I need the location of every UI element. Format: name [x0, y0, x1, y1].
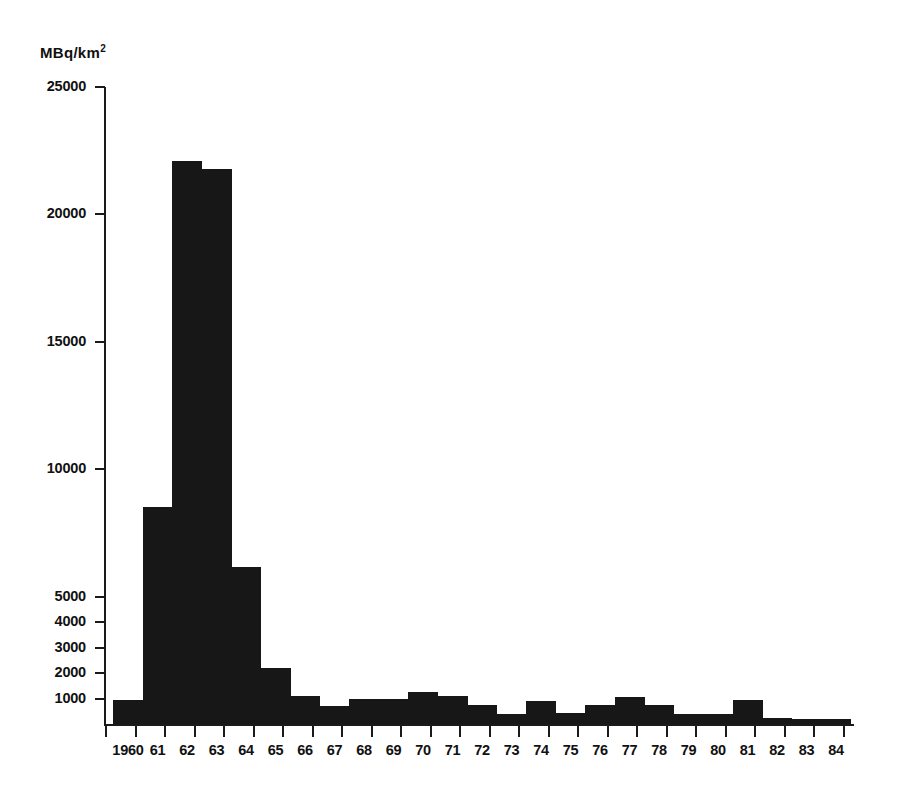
y-axis-tick [95, 647, 105, 649]
x-axis-tick [489, 726, 491, 737]
y-axis-tick [95, 596, 105, 598]
bar [438, 696, 468, 724]
bar [644, 705, 674, 724]
x-axis-tick [371, 726, 373, 737]
bar [408, 692, 438, 724]
x-axis-tick-label: 75 [563, 742, 579, 758]
x-axis-tick [695, 726, 697, 737]
bar [113, 700, 143, 724]
x-axis-tick-label: 78 [651, 742, 667, 758]
y-axis-tick-label: 4000 [24, 613, 86, 629]
x-axis-tick-label: 77 [622, 742, 638, 758]
bar [497, 714, 527, 724]
x-axis-tick [813, 726, 815, 737]
bar [172, 161, 202, 724]
x-axis-tick-label: 63 [209, 742, 225, 758]
y-axis-tick-label: 10000 [24, 460, 86, 476]
bar [674, 714, 704, 724]
bar [792, 719, 822, 724]
x-axis-tick-label: 80 [710, 742, 726, 758]
x-axis-tick-label: 70 [415, 742, 431, 758]
x-axis-tick [253, 726, 255, 737]
bar [467, 705, 497, 724]
x-axis-tick [725, 726, 727, 737]
x-axis-tick-label: 61 [150, 742, 166, 758]
bar [733, 700, 763, 724]
x-axis-tick-label: 64 [238, 742, 254, 758]
chart-page: MBq/km2 25000200001500010000500040003000… [0, 0, 911, 796]
y-axis-tick-label: 5000 [24, 588, 86, 604]
x-axis-tick-label: 73 [504, 742, 520, 758]
bar [821, 719, 851, 724]
x-axis-tick [754, 726, 756, 737]
y-axis-tick [95, 213, 105, 215]
y-axis-tick-label: 25000 [24, 78, 86, 94]
x-axis-tick [164, 726, 166, 737]
x-axis-tick-label: 69 [386, 742, 402, 758]
x-axis-tick-label: 62 [179, 742, 195, 758]
x-axis-tick [312, 726, 314, 737]
y-axis-tick [95, 341, 105, 343]
x-axis-tick-label: 66 [297, 742, 313, 758]
x-axis-tick-label: 83 [799, 742, 815, 758]
bar [585, 705, 615, 724]
y-axis-tick [95, 621, 105, 623]
bar [320, 706, 350, 724]
x-axis-tick-label: 81 [740, 742, 756, 758]
bar [231, 567, 261, 724]
x-axis-tick [105, 726, 107, 737]
x-axis-tick-label: 65 [268, 742, 284, 758]
x-axis-tick [636, 726, 638, 737]
x-axis-tick-label: 84 [828, 742, 844, 758]
x-axis-tick [400, 726, 402, 737]
x-axis-tick-label: 1960 [112, 742, 143, 758]
x-axis-tick [430, 726, 432, 737]
x-axis-tick-label: 79 [681, 742, 697, 758]
y-axis-tick [95, 468, 105, 470]
bar [762, 718, 792, 724]
bar [379, 699, 409, 724]
bar [261, 668, 291, 724]
x-axis-tick [577, 726, 579, 737]
x-axis-tick-label: 67 [327, 742, 343, 758]
x-axis-tick [666, 726, 668, 737]
x-axis-tick [518, 726, 520, 737]
x-axis-line [104, 724, 854, 726]
x-axis-tick-label: 82 [769, 742, 785, 758]
y-axis-tick-label: 2000 [24, 664, 86, 680]
x-axis-tick-label: 74 [533, 742, 549, 758]
bar [143, 507, 173, 724]
x-axis-tick-label: 68 [356, 742, 372, 758]
bar [526, 701, 556, 724]
bar [349, 699, 379, 724]
y-axis-tick [95, 672, 105, 674]
x-axis-tick [341, 726, 343, 737]
x-axis-tick-label: 76 [592, 742, 608, 758]
x-axis-tick [282, 726, 284, 737]
x-axis-tick-label: 71 [445, 742, 461, 758]
x-axis-tick [784, 726, 786, 737]
x-axis-tick [135, 726, 137, 737]
bar [703, 714, 733, 724]
y-axis-tick-label: 20000 [24, 205, 86, 221]
x-axis-tick [548, 726, 550, 737]
y-axis-tick [95, 86, 105, 88]
x-axis-tick [607, 726, 609, 737]
y-axis-tick [95, 698, 105, 700]
bar [556, 713, 586, 724]
y-axis-line [104, 87, 106, 726]
y-axis-tick-label: 3000 [24, 639, 86, 655]
bar [202, 169, 232, 724]
y-axis-tick-label: 1000 [24, 690, 86, 706]
x-axis-tick-label: 72 [474, 742, 490, 758]
plot-area: 2500020000150001000050004000300020001000… [0, 0, 911, 796]
x-axis-tick [223, 726, 225, 737]
y-axis-tick-label: 15000 [24, 333, 86, 349]
bar [290, 696, 320, 724]
x-axis-tick [459, 726, 461, 737]
bar [615, 697, 645, 724]
x-axis-tick [843, 726, 845, 737]
x-axis-tick [194, 726, 196, 737]
